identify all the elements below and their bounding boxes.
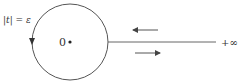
origin-dot	[68, 40, 71, 43]
infinity-label: +∞	[221, 37, 238, 48]
circle-radius-label: |t| = ε	[3, 15, 31, 26]
circle-direction-arrow-icon	[29, 38, 35, 45]
origin-label: 0	[59, 36, 66, 49]
keyhole-contour-diagram: 0 |t| = ε +∞	[0, 0, 240, 84]
